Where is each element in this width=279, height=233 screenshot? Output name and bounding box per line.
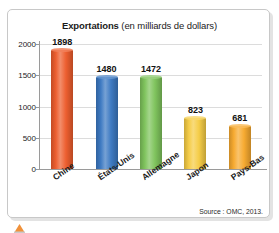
bar-value-label: 1480 (97, 64, 117, 74)
plot-area (40, 44, 262, 169)
bar-top-cap (51, 48, 73, 52)
chart-figure: Exportations (en milliards de dollars) S… (0, 0, 279, 233)
chart-title-subtitle: (en milliards de dollars) (119, 20, 217, 31)
bar[interactable] (96, 77, 118, 170)
bar-value-label: 823 (188, 105, 203, 115)
y-axis-tick-label: 0 (32, 165, 36, 174)
bar-value-label: 1898 (52, 37, 72, 47)
corner-marker-icon (14, 224, 25, 233)
y-axis-tick-mark (36, 44, 40, 45)
bar-top-cap (184, 116, 206, 120)
bar-top-cap (140, 75, 162, 79)
y-axis-tick-mark (36, 75, 40, 76)
bar-top-cap (229, 124, 251, 128)
y-axis-tick-label: 500 (23, 133, 36, 142)
y-axis-line (39, 41, 40, 169)
y-axis-tick-label: 1000 (18, 102, 36, 111)
y-axis-tick-mark (36, 138, 40, 139)
chart-title-main: Exportations (62, 20, 119, 31)
bar-value-label: 1472 (141, 64, 161, 74)
bar-value-label: 681 (232, 113, 247, 123)
y-axis-tick-mark (36, 169, 40, 170)
bar[interactable] (140, 77, 162, 169)
bar[interactable] (51, 50, 73, 169)
chart-title: Exportations (en milliards de dollars) (0, 20, 279, 31)
y-axis-tick-label: 2000 (18, 40, 36, 49)
y-axis-tick-mark (36, 107, 40, 108)
y-axis-tick-label: 1500 (18, 71, 36, 80)
source-note: Source : OMC, 2013. (199, 208, 263, 215)
gridline (40, 44, 262, 45)
bar-top-cap (96, 75, 118, 79)
